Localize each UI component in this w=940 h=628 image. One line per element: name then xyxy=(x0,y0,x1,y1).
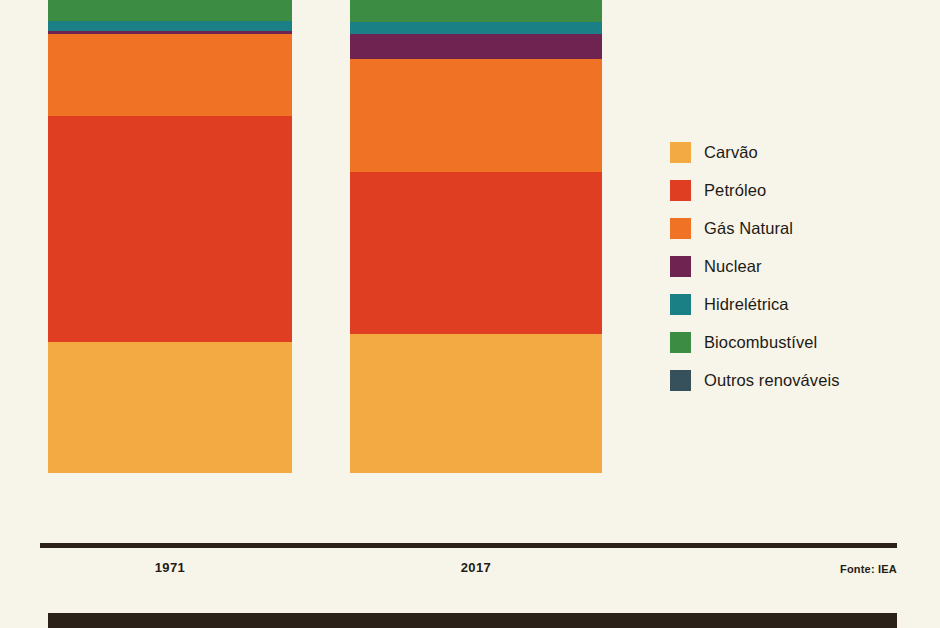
legend-swatch-icon xyxy=(670,370,691,391)
bar-segment-2017-biocombust-vel[interactable] xyxy=(350,0,602,22)
bar-segment-2017-carv-o[interactable] xyxy=(350,334,602,473)
legend-swatch-icon xyxy=(670,142,691,163)
x-axis-tick-label-2017: 2017 xyxy=(350,560,602,575)
legend-item-label: Outros renováveis xyxy=(704,371,840,390)
legend-item-label: Hidrelétrica xyxy=(704,295,789,314)
plot-area xyxy=(0,0,640,560)
legend-swatch-icon xyxy=(670,218,691,239)
legend-swatch-icon xyxy=(670,256,691,277)
legend-item-label: Gás Natural xyxy=(704,219,793,238)
legend-item-label: Nuclear xyxy=(704,257,762,276)
x-axis-line xyxy=(40,543,897,548)
bar-column-2017[interactable] xyxy=(350,0,602,473)
legend-item-label: Petróleo xyxy=(704,181,766,200)
legend-item-hidrel-trica[interactable]: Hidrelétrica xyxy=(670,285,840,323)
bar-segment-1971-biocombust-vel[interactable] xyxy=(48,0,292,21)
legend-item-nuclear[interactable]: Nuclear xyxy=(670,247,840,285)
legend-swatch-icon xyxy=(670,294,691,315)
bar-segment-1971-hidrel-trica[interactable] xyxy=(48,21,292,31)
bar-stack-2017 xyxy=(350,0,602,473)
stacked-bar-chart: 1971 2017 CarvãoPetróleoGás NaturalNucle… xyxy=(0,0,940,628)
legend-item-carv-o[interactable]: Carvão xyxy=(670,133,840,171)
chart-legend: CarvãoPetróleoGás NaturalNuclearHidrelét… xyxy=(670,133,840,399)
bar-stack-1971 xyxy=(48,0,292,473)
legend-item-label: Carvão xyxy=(704,143,758,162)
legend-item-outros-renov-veis[interactable]: Outros renováveis xyxy=(670,361,840,399)
legend-swatch-icon xyxy=(670,180,691,201)
legend-swatch-icon xyxy=(670,332,691,353)
bar-segment-1971-petr-leo[interactable] xyxy=(48,116,292,342)
legend-item-biocombust-vel[interactable]: Biocombustível xyxy=(670,323,840,361)
bar-segment-2017-hidrel-trica[interactable] xyxy=(350,22,602,35)
bar-segment-1971-carv-o[interactable] xyxy=(48,342,292,473)
bar-segment-2017-petr-leo[interactable] xyxy=(350,172,602,334)
bar-column-1971[interactable] xyxy=(48,0,292,473)
source-note: Fonte: IEA xyxy=(840,563,897,575)
legend-item-petr-leo[interactable]: Petróleo xyxy=(670,171,840,209)
legend-item-label: Biocombustível xyxy=(704,333,817,352)
legend-item-g-s-natural[interactable]: Gás Natural xyxy=(670,209,840,247)
bottom-decorative-band xyxy=(48,613,897,628)
x-axis-tick-label-1971: 1971 xyxy=(48,560,292,575)
bar-segment-2017-nuclear[interactable] xyxy=(350,34,602,59)
bar-segment-2017-g-s-natural[interactable] xyxy=(350,59,602,171)
bar-segment-1971-g-s-natural[interactable] xyxy=(48,34,292,116)
